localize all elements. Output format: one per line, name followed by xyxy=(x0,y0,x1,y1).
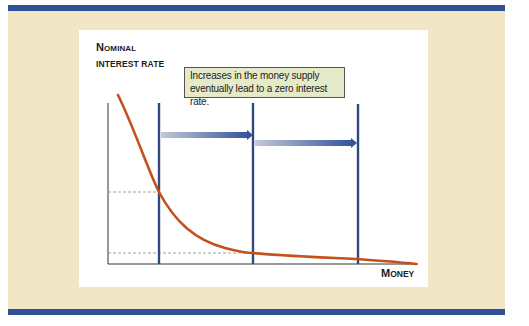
x-axis-label: MONEY xyxy=(381,267,414,279)
x-axis-label-initial: M xyxy=(381,267,390,279)
callout-line-2: eventually lead to a zero interest rate. xyxy=(190,82,342,108)
callout-line-1: Increases in the money supply xyxy=(190,69,342,82)
annotation-callout: Increases in the money supply eventually… xyxy=(184,67,345,98)
y-axis-label: NOMINAL INTEREST RATE xyxy=(96,40,164,72)
x-axis-label-rest: ONEY xyxy=(390,269,414,279)
y-axis-label-rest: OMINAL xyxy=(104,44,136,53)
y-axis-label-initial: N xyxy=(96,41,104,53)
shift-arrow-1 xyxy=(161,130,253,140)
money-market-diagram xyxy=(0,0,529,326)
money-demand-curve xyxy=(118,95,416,264)
y-axis-label-line2: INTEREST RATE xyxy=(96,57,164,72)
shift-arrow-2 xyxy=(255,138,357,148)
